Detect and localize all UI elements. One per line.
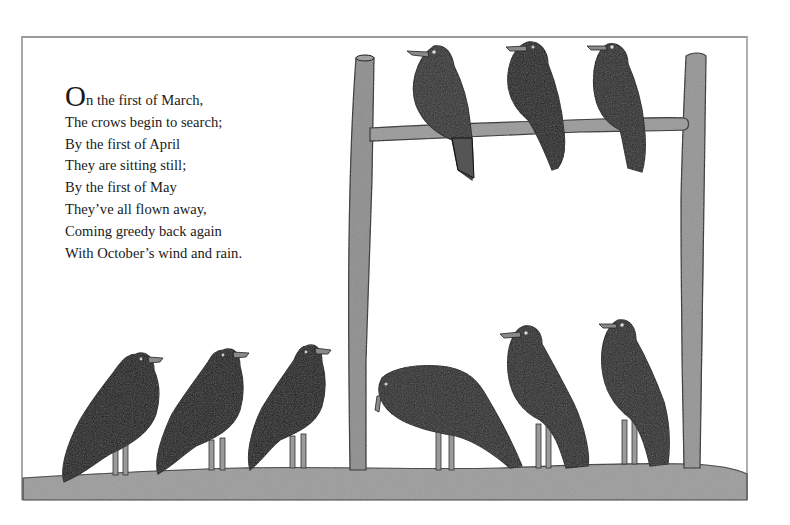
poem-line: They are sitting still; — [65, 155, 325, 177]
poem-line: The crows begin to search; — [65, 112, 325, 134]
left-post — [349, 56, 374, 470]
poem-line: By the first of April — [65, 134, 325, 156]
perched-crow-2 — [506, 42, 565, 170]
ground-crow-2 — [157, 349, 249, 474]
ground-crow-1 — [63, 353, 163, 482]
ground — [23, 463, 747, 500]
ground-crow-6 — [599, 320, 669, 466]
ground-crow-3 — [249, 345, 332, 470]
ground-crow-4-pecking — [375, 366, 522, 471]
poem-line: With October’s wind and rain. — [65, 243, 325, 265]
perched-crow-1 — [407, 46, 474, 180]
drop-cap: O — [65, 80, 86, 112]
poem-line-1: On the first of March, — [65, 86, 325, 112]
perched-crow-3 — [587, 44, 645, 172]
poem-line: They’ve all flown away, — [65, 199, 325, 221]
poem-line: Coming greedy back again — [65, 221, 325, 243]
right-post — [681, 53, 706, 468]
poem-line: By the first of May — [65, 177, 325, 199]
poem-text: On the first of March, The crows begin t… — [65, 86, 325, 264]
